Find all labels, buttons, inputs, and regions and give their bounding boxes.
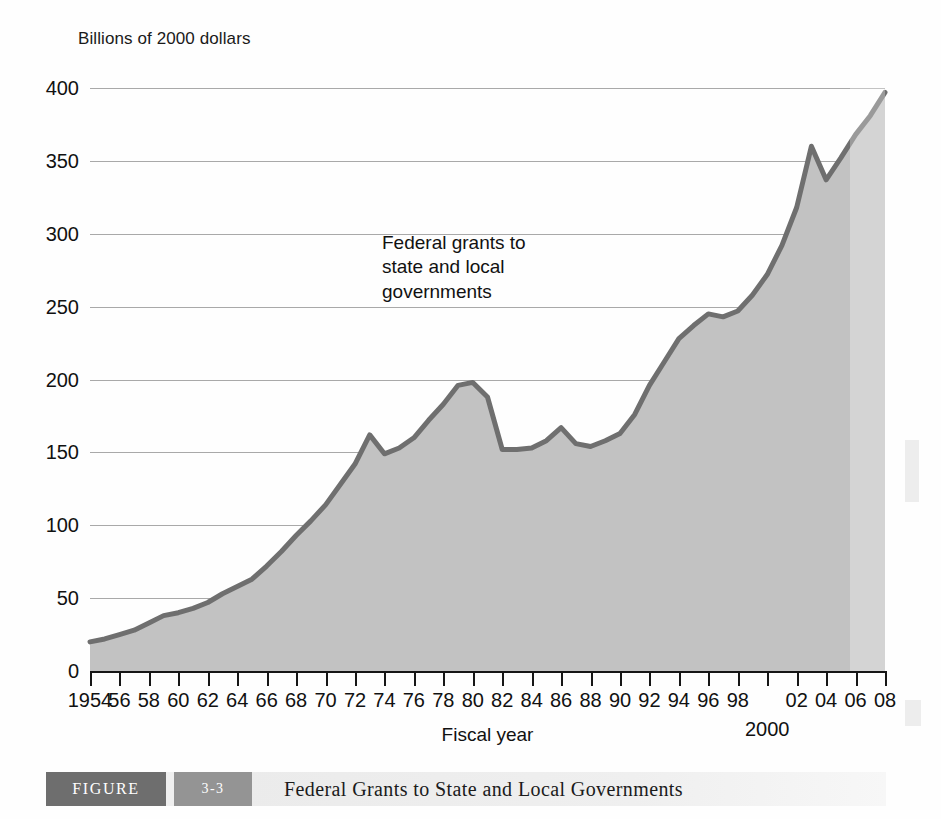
y-tick-label-0: 0 [68, 660, 79, 683]
x-tick-label-1970: 70 [314, 689, 336, 712]
y-tick-label-100: 100 [46, 514, 79, 537]
x-tick-label-1960: 60 [167, 689, 189, 712]
x-tick-1984 [532, 671, 534, 686]
x-tick-label-1954: 1954 [68, 689, 113, 712]
caption-figure-number: 3-3 [174, 772, 252, 806]
x-tick-1968 [296, 671, 298, 686]
x-tick-1962 [208, 671, 210, 686]
x-tick-1990 [620, 671, 622, 686]
x-tick-label-1964: 64 [226, 689, 248, 712]
x-tick-label-1994: 94 [668, 689, 690, 712]
x-tick-1980 [473, 671, 475, 686]
x-tick-label-1972: 72 [344, 689, 366, 712]
x-tick-label-1996: 96 [697, 689, 719, 712]
area-series-chart [90, 88, 885, 671]
x-tick-label-1980: 80 [462, 689, 484, 712]
y-tick-label-300: 300 [46, 222, 79, 245]
x-tick-label-1974: 74 [373, 689, 395, 712]
x-tick-1960 [178, 671, 180, 686]
x-tick-1986 [561, 671, 563, 686]
x-tick-2006 [856, 671, 858, 686]
x-tick-1958 [149, 671, 151, 686]
x-tick-label-1984: 84 [521, 689, 543, 712]
x-tick-1996 [708, 671, 710, 686]
plot-area: 050100150200250300350400 Federal grants … [90, 88, 885, 671]
caption-separator [166, 772, 174, 806]
y-axis-title: Billions of 2000 dollars [78, 29, 251, 49]
x-tick-label-2008: 08 [874, 689, 896, 712]
area-fill [90, 92, 885, 671]
x-tick-label-1962: 62 [197, 689, 219, 712]
y-tick-label-400: 400 [46, 77, 79, 100]
x-tick-1988 [591, 671, 593, 686]
y-tick-label-50: 50 [57, 587, 79, 610]
scan-mark-right-1 [905, 440, 919, 502]
series-annotation: Federal grants to state and local govern… [382, 231, 526, 304]
x-tick-label-1978: 78 [432, 689, 454, 712]
x-tick-1956 [119, 671, 121, 686]
x-tick-label-1990: 90 [609, 689, 631, 712]
x-tick-1994 [679, 671, 681, 686]
series-annotation-line-1: Federal grants to [382, 231, 526, 255]
caption-figure-label: FIGURE [46, 772, 166, 806]
figure-caption-bar: FIGURE 3-3 Federal Grants to State and L… [46, 772, 886, 806]
x-tick-2004 [826, 671, 828, 686]
y-tick-label-350: 350 [46, 149, 79, 172]
x-tick-label-1976: 76 [403, 689, 425, 712]
x-tick-label-1968: 68 [285, 689, 307, 712]
y-tick-label-200: 200 [46, 368, 79, 391]
scan-mark-right-2 [905, 700, 921, 726]
x-tick-2000 [767, 671, 769, 686]
x-tick-label-2006: 06 [844, 689, 866, 712]
x-tick-1954 [90, 671, 92, 686]
x-tick-label-1966: 66 [256, 689, 278, 712]
caption-figure-title: Federal Grants to State and Local Govern… [252, 772, 886, 806]
x-tick-label-1982: 82 [491, 689, 513, 712]
x-tick-label-1992: 92 [638, 689, 660, 712]
y-tick-label-250: 250 [46, 295, 79, 318]
x-tick-label-2004: 04 [815, 689, 837, 712]
x-tick-2002 [797, 671, 799, 686]
x-tick-1966 [267, 671, 269, 686]
figure-container: Billions of 2000 dollars 050100150200250… [0, 0, 941, 819]
series-annotation-line-3: governments [382, 280, 526, 304]
y-tick-label-150: 150 [46, 441, 79, 464]
x-tick-1972 [355, 671, 357, 686]
x-tick-1964 [237, 671, 239, 686]
x-tick-1998 [738, 671, 740, 686]
x-tick-1976 [414, 671, 416, 686]
x-tick-1974 [384, 671, 386, 686]
x-tick-2008 [885, 671, 887, 686]
x-tick-1982 [502, 671, 504, 686]
x-tick-label-1958: 58 [138, 689, 160, 712]
x-tick-1992 [649, 671, 651, 686]
x-axis-title: Fiscal year [90, 724, 885, 746]
series-annotation-line-2: state and local [382, 255, 526, 279]
x-tick-label-1986: 86 [550, 689, 572, 712]
x-tick-label-2002: 02 [786, 689, 808, 712]
x-tick-label-1988: 88 [579, 689, 601, 712]
x-tick-label-1998: 98 [727, 689, 749, 712]
x-tick-label-1956: 56 [108, 689, 130, 712]
x-tick-1978 [443, 671, 445, 686]
x-tick-1970 [326, 671, 328, 686]
